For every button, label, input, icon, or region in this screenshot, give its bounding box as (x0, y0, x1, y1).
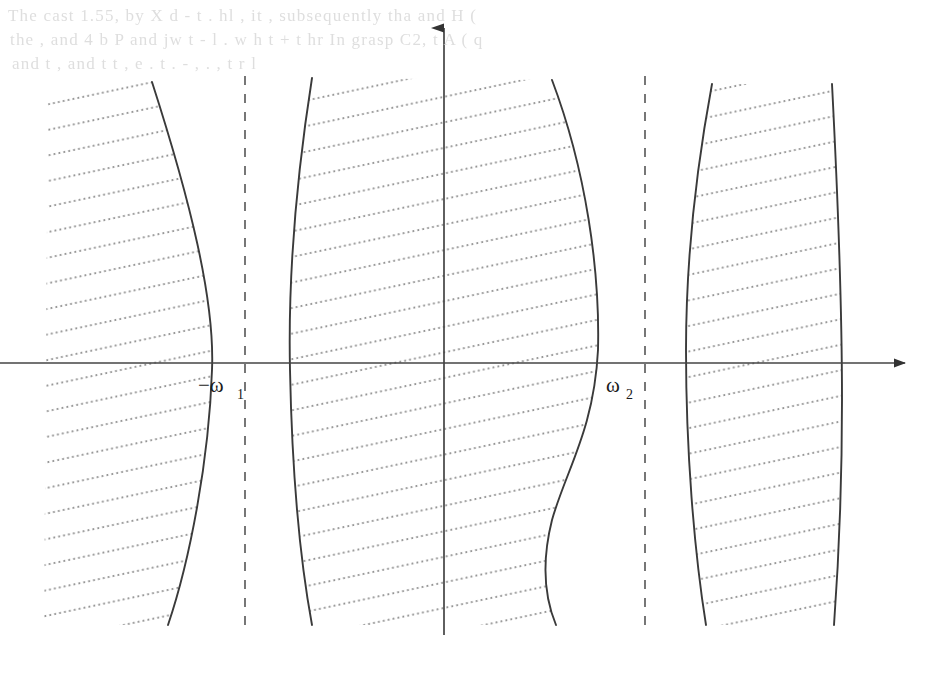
figure-root: The cast 1.55, by X d - t . hl , it , su… (0, 0, 942, 674)
ghost-text-line: the , and 4 b P and jw t - l . w h t + t… (10, 30, 483, 50)
math-figure: −ω1ω2 (0, 0, 942, 674)
ghost-text-line: The cast 1.55, by X d - t . hl , it , su… (8, 6, 477, 26)
ghost-text-line: and t , and t t , e . t . - , . , t r l (12, 54, 257, 74)
label-omega-2: ω (606, 373, 620, 397)
hatched-region-3 (686, 84, 842, 625)
hatched-regions-layer (44, 78, 842, 625)
label-minus-omega-1: −ω (198, 373, 224, 397)
label-minus-omega-1-subscript: 1 (237, 387, 244, 402)
hatched-region-1 (44, 82, 212, 625)
label-omega-2-subscript: 2 (626, 387, 633, 402)
